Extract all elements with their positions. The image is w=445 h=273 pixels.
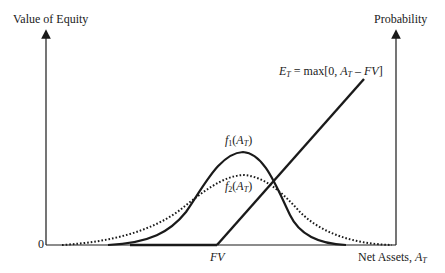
x-axis-label-sub: T bbox=[422, 256, 426, 265]
f1-density-curve bbox=[108, 152, 346, 245]
right-axis-label: Probability bbox=[374, 13, 427, 25]
f2-close: ) bbox=[248, 179, 252, 193]
fv-label: FV bbox=[210, 251, 225, 263]
f2-var: A bbox=[236, 179, 243, 193]
f2-label: f2(AT) bbox=[225, 180, 252, 194]
payoff-line bbox=[217, 79, 364, 245]
formula-minus: – bbox=[352, 64, 364, 78]
x-axis-label: Net Assets, AT bbox=[358, 251, 427, 265]
f1-label: f1(AT) bbox=[225, 134, 252, 148]
equity-payoff-diagram bbox=[0, 0, 445, 273]
left-axis-label: Value of Equity bbox=[13, 13, 88, 25]
origin-label: 0 bbox=[38, 238, 44, 250]
formula-var: A bbox=[340, 64, 347, 78]
formula-eq: = max[0, bbox=[291, 64, 340, 78]
f1-var: A bbox=[236, 133, 243, 147]
f1-close: ) bbox=[248, 133, 252, 147]
formula-close: ] bbox=[379, 64, 383, 78]
payoff-formula-label: ET = max[0, AT – FV] bbox=[279, 65, 383, 79]
formula-fv: FV bbox=[364, 64, 379, 78]
x-axis-label-text: Net Assets, bbox=[358, 250, 415, 264]
